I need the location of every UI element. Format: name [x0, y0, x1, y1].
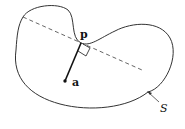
label-p: p: [80, 28, 88, 41]
separating-hyperplane-diagram: p a S: [0, 0, 185, 129]
tangent-line-dashed: [23, 17, 142, 70]
point-a-dot: [63, 79, 66, 82]
label-s: S: [160, 102, 168, 115]
label-a: a: [72, 76, 79, 89]
